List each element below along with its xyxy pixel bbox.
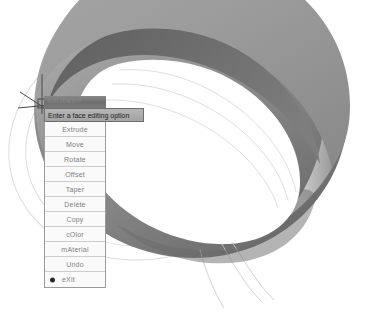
menu-title-strip: SOLIDEDIT	[44, 96, 106, 108]
menu-item-material[interactable]: mAterial	[45, 242, 105, 257]
menu-item-label: Undo	[66, 261, 84, 268]
menu-item-label: Extrude	[62, 126, 88, 133]
menu-item-copy[interactable]: Copy	[45, 212, 105, 227]
menu-item-color[interactable]: cOlor	[45, 227, 105, 242]
menu-item-label: Move	[66, 141, 84, 148]
menu-item-label: Copy	[66, 216, 83, 223]
menu-item-label: Taper	[66, 186, 85, 193]
menu-item-label: Rotate	[64, 156, 86, 163]
menu-item-label: mAterial	[61, 246, 88, 253]
menu-item-taper[interactable]: Taper	[45, 182, 105, 197]
face-editing-shortcut-menu[interactable]: SOLIDEDIT Enter a face editing option Ex…	[44, 96, 106, 288]
menu-item-undo[interactable]: Undo	[45, 257, 105, 272]
menu-header-prompt: Enter a face editing option	[44, 108, 144, 122]
selected-marker-icon	[50, 277, 55, 282]
menu-item-label: cOlor	[66, 231, 84, 238]
menu-item-label: Delete	[64, 201, 85, 208]
application-window: SOLIDEDIT Enter a face editing option Ex…	[0, 0, 378, 314]
menu-item-extrude[interactable]: Extrude	[45, 122, 105, 137]
menu-item-rotate[interactable]: Rotate	[45, 152, 105, 167]
menu-item-offset[interactable]: Offset	[45, 167, 105, 182]
menu-item-label: Offset	[65, 171, 85, 178]
menu-item-exit[interactable]: eXit	[45, 272, 105, 287]
menu-title-ghost-text: SOLIDEDIT	[47, 98, 82, 104]
menu-item-label: eXit	[62, 276, 75, 283]
menu-item-list[interactable]: Extrude Move Rotate Offset Taper Delete …	[44, 122, 106, 288]
menu-item-delete[interactable]: Delete	[45, 197, 105, 212]
menu-item-move[interactable]: Move	[45, 137, 105, 152]
